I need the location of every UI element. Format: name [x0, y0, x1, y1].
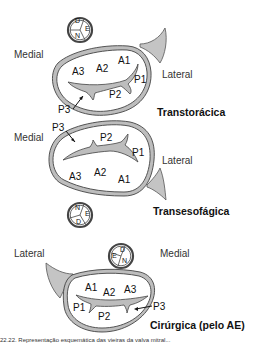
segment-p2: P2 [109, 90, 121, 100]
view-transthoracic-drawing [52, 18, 166, 115]
medial-label: Medial [160, 249, 189, 259]
segment-a2: A2 [96, 64, 108, 74]
orientation-dorsal-letter: D [75, 17, 80, 24]
medial-label: Medial [14, 50, 43, 60]
orientation-ventral-letter: N [122, 257, 127, 264]
lateral-label: Lateral [14, 249, 45, 259]
segment-a3: A3 [72, 67, 84, 77]
lateral-label: Lateral [162, 70, 193, 80]
orientation-side-letter: E [112, 252, 117, 259]
orientation-dorsal-letter: D [120, 246, 125, 253]
lateral-label: Lateral [162, 156, 193, 166]
view-title-surgical: Cirúrgica (pelo AE) [150, 320, 245, 331]
orientation-ventral-letter: N [75, 204, 80, 211]
segment-a1: A1 [118, 56, 130, 66]
segment-p1: P1 [134, 75, 146, 85]
segment-a2: A2 [103, 288, 115, 298]
orientation-side-letter: E [85, 210, 90, 217]
segment-a2: A2 [94, 168, 106, 178]
segment-a3: A3 [124, 285, 136, 295]
segment-p3: P3 [58, 105, 70, 115]
orientation-ventral-letter: N [75, 32, 80, 39]
medial-label: Medial [14, 133, 43, 143]
segment-p2: P2 [98, 312, 110, 322]
view-title-transesophageal: Transesofágica [153, 206, 229, 217]
segment-a1: A1 [85, 283, 97, 293]
segment-a3: A3 [69, 172, 81, 182]
segment-p3: P3 [52, 123, 64, 133]
segment-p1: P1 [73, 303, 85, 313]
figure-caption: 22.22. Representação esquemática das vie… [0, 337, 170, 343]
segment-p3: P3 [153, 302, 165, 312]
segment-a1: A1 [118, 175, 130, 185]
view-title-transthoracic: Transtorácica [157, 107, 225, 118]
segment-p2: P2 [100, 133, 112, 143]
orientation-side-letter: E [85, 25, 90, 32]
segment-p1: P1 [132, 148, 144, 158]
orientation-dorsal-letter: D [76, 218, 81, 225]
